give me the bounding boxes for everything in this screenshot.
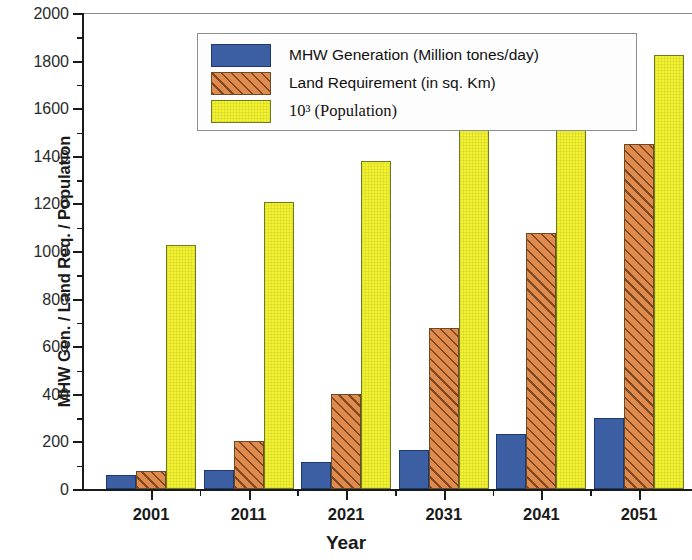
bar (166, 245, 196, 489)
legend-item-land-requirement: Land Requirement (in sq. Km) (211, 69, 636, 97)
x-tick (444, 491, 446, 500)
y-tick-minor (77, 228, 82, 230)
legend-swatch-mhw-generation (211, 44, 271, 67)
x-axis-title: Year (0, 532, 692, 554)
y-tick-label: 200 (42, 433, 69, 451)
bar (654, 55, 684, 489)
y-tick-major (73, 299, 82, 301)
x-axis-line (82, 489, 692, 491)
x-tick (639, 491, 641, 500)
bar (399, 450, 429, 489)
x-tick-label: 2001 (133, 505, 170, 524)
legend-item-population: 10³ (Population) (211, 97, 636, 125)
plot-top-border (82, 13, 692, 14)
x-tick-label: 2011 (231, 505, 267, 524)
y-tick-major (73, 203, 82, 205)
x-tick-label: 2031 (425, 505, 462, 524)
y-tick-major (73, 394, 82, 396)
bar (204, 470, 234, 489)
y-tick-label: 800 (42, 291, 69, 309)
y-tick-minor (77, 466, 82, 468)
bar (136, 471, 166, 489)
legend-swatch-population (211, 100, 271, 123)
x-tick (541, 491, 543, 500)
x-tick-minor (297, 491, 299, 496)
x-tick (346, 491, 348, 500)
bar (106, 475, 136, 489)
y-axis-line (82, 13, 84, 491)
y-tick-minor (77, 323, 82, 325)
y-tick-label: 2000 (33, 5, 69, 23)
bar (496, 434, 526, 489)
y-tick-major (73, 61, 82, 63)
x-tick (151, 491, 153, 500)
y-tick-major (73, 346, 82, 348)
legend-label-population: 10³ (Population) (289, 101, 397, 121)
y-tick-minor (77, 180, 82, 182)
bar-chart: MHW Gen. / Land Req. / Population 020040… (0, 0, 692, 560)
y-tick-label: 1800 (33, 53, 69, 71)
y-tick-label: 600 (42, 338, 69, 356)
bar (459, 121, 489, 489)
plot-area: 0200400600800100012001400160018002000 20… (82, 13, 692, 490)
bar (429, 328, 459, 489)
legend-item-mhw-generation: MHW Generation (Million tones/day) (211, 41, 636, 69)
x-tick-minor (493, 491, 495, 496)
x-tick-label: 2051 (621, 505, 658, 524)
y-tick-minor (77, 371, 82, 373)
x-tick-minor (590, 491, 592, 496)
y-tick-label: 1000 (33, 243, 69, 261)
y-tick-label: 0 (60, 481, 69, 499)
bar (361, 161, 391, 489)
chart-legend: MHW Generation (Million tones/day) Land … (197, 33, 637, 131)
y-tick-major (73, 156, 82, 158)
x-tick-minor (200, 491, 202, 496)
x-tick-label: 2041 (523, 505, 560, 524)
y-tick-label: 1400 (33, 148, 69, 166)
y-tick-major (73, 108, 82, 110)
bar (594, 418, 624, 489)
bar (331, 394, 361, 489)
y-tick-minor (77, 275, 82, 277)
bar (301, 462, 331, 489)
legend-label-mhw-generation: MHW Generation (Million tones/day) (289, 46, 539, 64)
bar (556, 86, 586, 489)
y-tick-major (73, 13, 82, 15)
bar (234, 441, 264, 489)
x-tick-label: 2021 (328, 505, 365, 524)
bar (624, 144, 654, 489)
y-tick-minor (77, 418, 82, 420)
y-tick-major (73, 251, 82, 253)
bar (526, 233, 556, 489)
legend-swatch-land-requirement (211, 72, 271, 95)
x-tick-minor (395, 491, 397, 496)
y-tick-major (73, 489, 82, 491)
y-tick-label: 400 (42, 386, 69, 404)
y-tick-minor (77, 37, 82, 39)
x-tick (249, 491, 251, 500)
bar (264, 202, 294, 489)
y-tick-minor (77, 133, 82, 135)
legend-label-land-requirement: Land Requirement (in sq. Km) (289, 74, 496, 92)
y-tick-label: 1200 (33, 195, 69, 213)
y-tick-major (73, 441, 82, 443)
y-tick-minor (77, 85, 82, 87)
y-tick-label: 1600 (33, 100, 69, 118)
